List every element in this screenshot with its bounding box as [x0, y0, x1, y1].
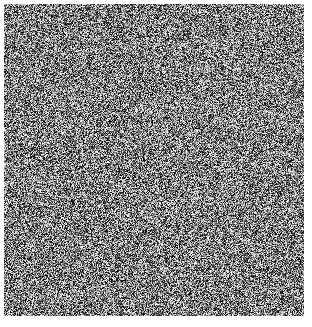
page-root [0, 0, 312, 327]
grayscale-noise-field [4, 4, 304, 316]
